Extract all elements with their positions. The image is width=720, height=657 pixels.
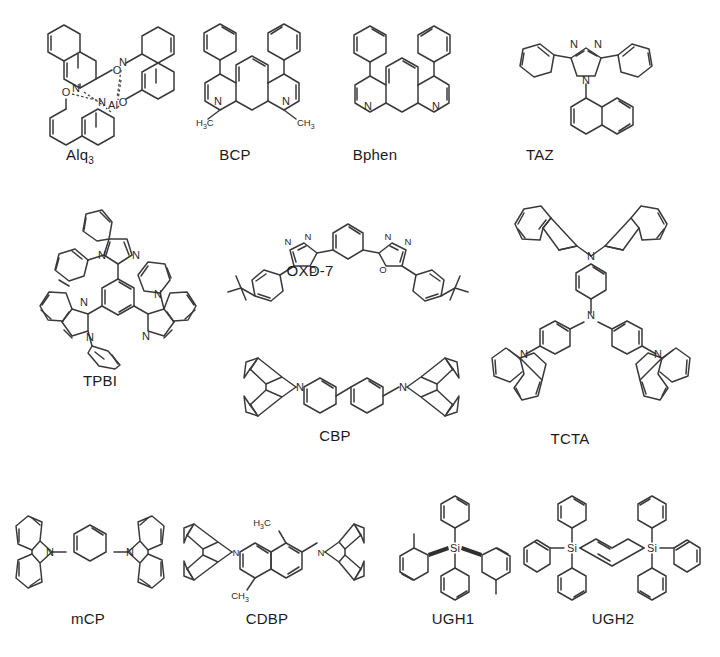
atom-nitrogen-tcta-left: N — [520, 348, 528, 360]
atom-methyl-bcp-left: H3C — [196, 117, 214, 130]
atom-nitrogen-tpbi-r2: N — [142, 330, 150, 342]
caption-alq3: Alq3 — [40, 146, 120, 166]
atom-nitrogen-tpbi-l2: N — [86, 331, 94, 343]
molecule-bcp: N N H3C CH3 — [196, 24, 326, 146]
caption-cdbp: CDBP — [222, 610, 312, 627]
oxd7-diagram: N N O N N O — [228, 200, 468, 305]
atom-nitrogen-mcp-left: N — [46, 546, 54, 558]
tcta-diagram: N N N — [484, 198, 699, 416]
atom-nitrogen-oxd-r1: N — [385, 231, 392, 242]
atom-nitrogen-cdbp-right: N — [318, 547, 325, 558]
atom-nitrogen-oxd-r2: N — [405, 236, 412, 247]
atom-nitrogen-tpbi-t1: N — [98, 249, 106, 261]
atom-nitrogen-ul: N — [72, 82, 80, 94]
atom-nitrogen-ur: N — [119, 56, 127, 68]
chemical-structure-figure: O N Al N O — [0, 0, 720, 657]
caption-tcta: TCTA — [530, 430, 610, 447]
caption-ugh2: UGH2 — [568, 610, 658, 627]
atom-nitrogen-bottom: N — [98, 96, 106, 108]
caption-cbp: CBP — [300, 427, 370, 444]
atom-nitrogen-oxd-l2: N — [305, 231, 312, 242]
bond-wedge-left — [428, 546, 449, 557]
caption-ugh1: UGH1 — [408, 610, 498, 627]
molecule-ugh1: Si — [390, 500, 520, 600]
cbp-diagram: N N — [244, 348, 459, 426]
caption-bphen: Bphen — [330, 146, 420, 163]
atom-nitrogen-cbp-left: N — [296, 381, 304, 393]
molecule-tpbi: N N N N — [24, 200, 214, 370]
atom-silicon-ugh1: Si — [450, 542, 460, 554]
molecule-cdbp: N H3C CH3 N — [184, 504, 364, 602]
molecule-oxd7: N N O N N O — [228, 200, 468, 305]
atom-nitrogen-mcp-right: N — [126, 546, 134, 558]
caption-mcp: mCP — [48, 610, 128, 627]
atom-nitrogen-bphen-left: N — [364, 100, 372, 112]
atom-nitrogen-taz-2: N — [594, 38, 602, 50]
caption-bcp: BCP — [190, 146, 280, 163]
atom-nitrogen-tcta-center: N — [587, 309, 595, 321]
caption-taz: TAZ — [500, 146, 580, 163]
caption-alq3-text: Alq — [66, 146, 88, 163]
atom-nitrogen-taz-3: N — [582, 74, 590, 86]
atom-silicon-ugh2-left: Si — [567, 542, 577, 554]
atom-methyl-cdbp-top: H3C — [253, 517, 271, 530]
atom-nitrogen-bphen-right: N — [432, 100, 440, 112]
ugh2-diagram: Si Si — [534, 500, 704, 600]
atom-nitrogen-bcp-right: N — [282, 95, 290, 107]
atom-silicon-ugh2-right: Si — [647, 542, 657, 554]
atom-nitrogen-tpbi-r1: N — [154, 288, 162, 300]
atom-oxygen-oxd-r: O — [379, 264, 386, 275]
molecule-alq3: O N Al N O — [18, 14, 188, 146]
atom-nitrogen-oxd-l1: N — [285, 236, 292, 247]
atom-oxygen-bottom: O — [62, 86, 71, 98]
atom-methyl-bcp-right: CH3 — [297, 117, 315, 130]
molecule-tcta: N N N — [484, 198, 699, 416]
molecule-taz: N N N — [516, 24, 656, 144]
bphen-diagram: N N — [346, 26, 471, 138]
molecule-bphen: N N — [346, 26, 471, 138]
atom-methyl-cdbp-bottom: CH3 — [231, 590, 249, 603]
cdbp-diagram: N H3C CH3 N — [184, 504, 364, 602]
atom-aluminium-center: Al — [108, 99, 118, 111]
bond-wedge-right — [461, 546, 482, 557]
molecule-mcp: N N — [10, 508, 170, 600]
atom-nitrogen-tcta-right: N — [654, 348, 662, 360]
taz-diagram: N N N — [516, 24, 656, 144]
atom-oxygen-ur: O — [119, 96, 128, 108]
mcp-diagram: N N — [10, 508, 170, 600]
atom-nitrogen-tpbi-l1: N — [80, 296, 88, 308]
tpbi-diagram: N N N N — [24, 200, 214, 370]
alq3-diagram: O N Al N O — [18, 14, 188, 146]
atom-nitrogen-taz-1: N — [570, 38, 578, 50]
atom-nitrogen-cdbp-left: N — [233, 547, 240, 558]
bcp-diagram: N N H3C CH3 — [196, 24, 326, 146]
molecule-ugh2: Si Si — [534, 500, 704, 600]
atom-nitrogen-bcp-left: N — [214, 95, 222, 107]
ugh1-diagram: Si — [390, 500, 520, 600]
caption-tpbi: TPBI — [60, 372, 140, 389]
caption-alq3-sub: 3 — [88, 155, 94, 166]
atom-nitrogen-tcta-top: N — [587, 250, 595, 262]
caption-oxd7: OXD-7 — [275, 262, 345, 279]
atom-nitrogen-cbp-right: N — [399, 381, 407, 393]
molecule-cbp: N N — [244, 348, 459, 426]
atom-nitrogen-tpbi-t2: N — [132, 249, 140, 261]
